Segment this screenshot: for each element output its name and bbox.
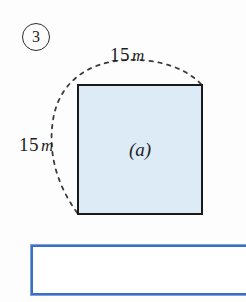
problem-number-badge: 3 bbox=[22, 23, 50, 51]
dimension-left-value: 15 bbox=[19, 134, 39, 155]
dimension-top-unit: m bbox=[132, 46, 145, 65]
square-interior-label: (a) bbox=[79, 138, 201, 160]
worksheet-page: 3 (a) 15m 15m bbox=[0, 0, 246, 302]
dimension-left-unit: m bbox=[41, 136, 54, 155]
problem-number-text: 3 bbox=[32, 29, 40, 45]
square-figure: (a) bbox=[77, 84, 203, 215]
answer-input[interactable] bbox=[33, 247, 246, 293]
answer-box[interactable] bbox=[31, 245, 246, 295]
dimension-label-top: 15m bbox=[110, 44, 145, 66]
dimension-label-left: 15m bbox=[19, 134, 54, 156]
dimension-top-value: 15 bbox=[110, 44, 130, 65]
